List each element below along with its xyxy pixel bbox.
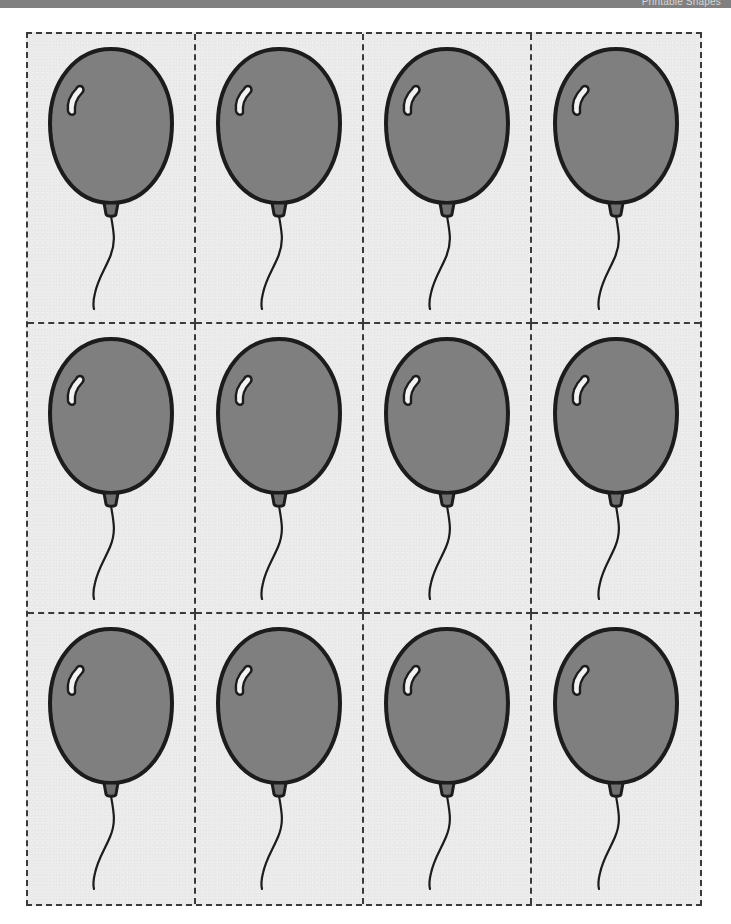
cutout-cell[interactable] <box>196 614 364 904</box>
balloon-body <box>218 339 340 493</box>
balloon-shape <box>40 45 182 311</box>
balloon-string <box>93 506 114 599</box>
balloon-knot <box>272 203 286 216</box>
cutout-cell[interactable] <box>196 34 364 324</box>
balloon-body <box>555 629 677 783</box>
balloon-string <box>598 796 619 889</box>
balloon-string <box>429 216 450 309</box>
cutout-cell[interactable] <box>28 34 196 324</box>
balloon-shape <box>545 335 687 601</box>
balloon-knot <box>609 203 623 216</box>
balloon-knot <box>104 493 118 506</box>
balloon-shape <box>40 335 182 601</box>
balloon-knot <box>104 783 118 796</box>
balloon-knot <box>440 783 454 796</box>
balloon-string <box>429 506 450 599</box>
balloon-knot <box>440 203 454 216</box>
balloon-body <box>218 49 340 203</box>
balloon-body <box>386 629 508 783</box>
balloon-string <box>93 216 114 309</box>
balloon-body <box>386 49 508 203</box>
page-right-margin <box>707 8 731 924</box>
top-header-title: Printable Shapes <box>642 0 721 7</box>
balloon-body <box>555 49 677 203</box>
balloon-shape <box>208 625 350 891</box>
cutout-cell[interactable] <box>532 34 700 324</box>
balloon-shape <box>40 625 182 891</box>
balloon-string <box>598 506 619 599</box>
cutout-cell[interactable] <box>28 324 196 614</box>
balloon-string <box>429 796 450 889</box>
cutout-cell[interactable] <box>532 324 700 614</box>
cutout-grid <box>26 32 702 906</box>
cutout-cell[interactable] <box>364 34 532 324</box>
balloon-knot <box>440 493 454 506</box>
cutout-cell[interactable] <box>364 614 532 904</box>
balloon-knot <box>272 493 286 506</box>
balloon-string <box>261 216 282 309</box>
balloon-body <box>386 339 508 493</box>
balloon-body <box>218 629 340 783</box>
balloon-knot <box>272 783 286 796</box>
balloon-shape <box>376 45 518 311</box>
balloon-shape <box>208 45 350 311</box>
balloon-body <box>50 49 172 203</box>
balloon-shape <box>545 625 687 891</box>
balloon-knot <box>609 493 623 506</box>
balloon-string <box>261 796 282 889</box>
balloon-string <box>261 506 282 599</box>
top-header-bar: Printable Shapes <box>0 0 731 8</box>
printable-page <box>0 8 731 924</box>
balloon-string <box>93 796 114 889</box>
balloon-knot <box>609 783 623 796</box>
balloon-shape <box>208 335 350 601</box>
balloon-string <box>598 216 619 309</box>
balloon-shape <box>545 45 687 311</box>
balloon-shape <box>376 625 518 891</box>
cutout-cell[interactable] <box>364 324 532 614</box>
balloon-body <box>50 339 172 493</box>
balloon-body <box>50 629 172 783</box>
cutout-cell[interactable] <box>196 324 364 614</box>
cutout-cell[interactable] <box>532 614 700 904</box>
balloon-body <box>555 339 677 493</box>
balloon-knot <box>104 203 118 216</box>
cutout-cell[interactable] <box>28 614 196 904</box>
balloon-shape <box>376 335 518 601</box>
